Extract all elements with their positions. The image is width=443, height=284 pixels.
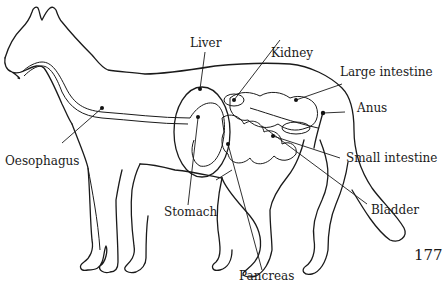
leader-lines	[62, 40, 367, 270]
label-large-intestine: Large intestine	[340, 66, 433, 78]
small-intestine-organ	[222, 115, 296, 164]
front-leg-outline	[72, 124, 122, 273]
label-stomach: Stomach	[164, 206, 217, 218]
label-small-intestine: Small intestine	[346, 152, 437, 164]
label-pancreas: Pancreas	[239, 270, 294, 282]
label-anus: Anus	[357, 102, 387, 114]
label-bladder: Bladder	[371, 204, 419, 216]
label-kidney: Kidney	[271, 47, 313, 59]
hind-leg-back	[303, 140, 348, 274]
hind-leg-front	[213, 178, 232, 270]
liver-organ	[174, 87, 230, 177]
label-liver: Liver	[190, 37, 221, 49]
chest-line	[125, 164, 148, 273]
label-oesophagus: Oesophagus	[5, 155, 79, 167]
page-number: 177	[414, 248, 443, 263]
oesophagus-tube	[22, 62, 190, 118]
stomach-organ	[190, 103, 224, 166]
hind-leg-outline	[222, 140, 304, 277]
